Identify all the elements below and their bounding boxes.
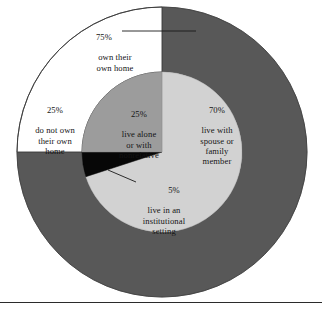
chart-figure: 75% own their own home 25% do not own th… (0, 0, 322, 313)
donut-pie-chart (0, 0, 322, 313)
bottom-divider-rule (0, 302, 322, 303)
